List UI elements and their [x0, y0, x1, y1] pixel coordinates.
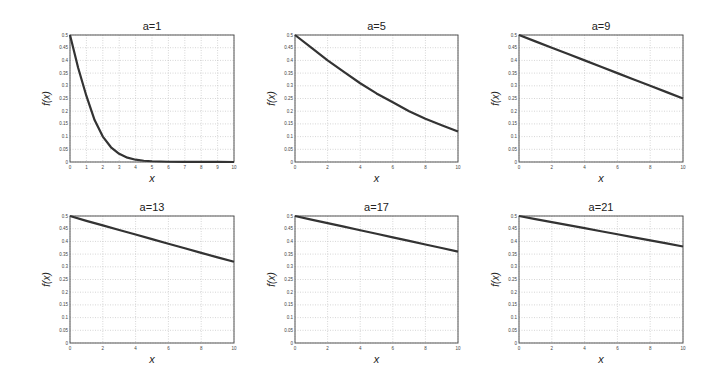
x-tick-label: 8: [424, 165, 427, 170]
x-axis-label: x: [597, 172, 604, 184]
subplot-a1: 01234567891000.050.10.150.20.250.30.350.…: [40, 15, 240, 194]
y-tick-label: 0.15: [284, 302, 293, 307]
y-tick-label: 0.4: [287, 239, 294, 244]
y-tick-label: 0.05: [508, 147, 517, 152]
x-tick-label: 7: [184, 165, 187, 170]
x-tick-label: 6: [392, 346, 395, 351]
y-tick-label: 0.45: [508, 226, 517, 231]
y-tick-label: 0.15: [284, 121, 293, 126]
x-tick-label: 1: [85, 165, 88, 170]
x-axis-label: x: [148, 353, 155, 365]
x-tick-label: 5: [151, 165, 154, 170]
y-tick-label: 0: [65, 341, 68, 346]
x-axis-label: x: [373, 172, 380, 184]
y-tick-label: 0.5: [62, 214, 69, 219]
y-tick-label: 0: [65, 160, 68, 165]
x-tick-label: 10: [231, 346, 237, 351]
x-axis-label: x: [597, 353, 604, 365]
subplot-title: a=21: [589, 201, 614, 213]
y-axis-label: f(x): [266, 272, 277, 286]
x-tick-labels: 0246810: [69, 346, 237, 351]
subplot-title: a=5: [367, 20, 386, 32]
x-tick-label: 10: [680, 346, 686, 351]
y-tick-label: 0.45: [59, 45, 68, 50]
y-tick-label: 0.15: [508, 302, 517, 307]
subplot-a21: 024681000.050.10.150.20.250.30.350.40.45…: [489, 196, 689, 375]
x-tick-label: 8: [649, 346, 652, 351]
x-tick-label: 6: [167, 165, 170, 170]
y-tick-label: 0.2: [62, 109, 69, 114]
subplot-a9: 024681000.050.10.150.20.250.30.350.40.45…: [489, 15, 689, 194]
y-tick-label: 0.45: [284, 45, 293, 50]
x-tick-label: 2: [551, 165, 554, 170]
y-axis-label: f(x): [490, 272, 501, 286]
y-tick-label: 0.3: [62, 83, 69, 88]
y-tick-label: 0.3: [511, 83, 518, 88]
y-tick-label: 0.35: [284, 71, 293, 76]
subplot-a5: 024681000.050.10.150.20.250.30.350.40.45…: [265, 15, 464, 194]
subplot-title: a=17: [364, 201, 389, 213]
y-axis-label: f(x): [41, 272, 52, 286]
x-tick-labels: 0246810: [294, 165, 461, 170]
subplot-a13: 024681000.050.10.150.20.250.30.350.40.45…: [40, 196, 240, 375]
y-tick-label: 0.1: [511, 134, 518, 139]
x-tick-labels: 0246810: [518, 165, 686, 170]
y-tick-label: 0.1: [511, 315, 518, 320]
y-tick-label: 0.3: [287, 83, 294, 88]
y-tick-label: 0.15: [508, 121, 517, 126]
y-tick-label: 0: [514, 341, 517, 346]
y-tick-labels: 00.050.10.150.20.250.30.350.40.450.5: [284, 33, 293, 165]
y-tick-label: 0.5: [62, 33, 69, 38]
y-tick-labels: 00.050.10.150.20.250.30.350.40.450.5: [59, 214, 68, 346]
y-tick-label: 0.15: [59, 302, 68, 307]
data-curve: [519, 35, 683, 99]
y-tick-label: 0.05: [284, 328, 293, 333]
x-tick-labels: 0246810: [518, 346, 686, 351]
y-tick-label: 0.5: [511, 33, 518, 38]
y-tick-label: 0.2: [287, 109, 294, 114]
subplot-a17: 024681000.050.10.150.20.250.30.350.40.45…: [265, 196, 464, 375]
grid-lines: [519, 216, 683, 343]
subplot-title: a=1: [143, 20, 162, 32]
grid-lines: [519, 35, 683, 162]
data-curve: [295, 216, 458, 252]
y-tick-label: 0.1: [62, 134, 69, 139]
y-tick-label: 0.4: [287, 58, 294, 63]
y-tick-labels: 00.050.10.150.20.250.30.350.40.450.5: [508, 33, 517, 165]
x-tick-label: 2: [102, 165, 105, 170]
x-tick-label: 6: [392, 165, 395, 170]
y-tick-label: 0.4: [62, 58, 69, 63]
x-tick-label: 4: [583, 346, 586, 351]
y-tick-label: 0.5: [511, 214, 518, 219]
y-tick-labels: 00.050.10.150.20.250.30.350.40.450.5: [59, 33, 68, 165]
y-tick-label: 0.5: [287, 214, 294, 219]
y-tick-label: 0.25: [59, 277, 68, 282]
x-tick-label: 2: [326, 346, 329, 351]
y-axis-label: f(x): [41, 91, 52, 105]
y-tick-label: 0.25: [284, 96, 293, 101]
y-tick-label: 0.35: [59, 71, 68, 76]
y-axis-label: f(x): [490, 91, 501, 105]
y-tick-label: 0.3: [287, 264, 294, 269]
y-tick-label: 0.35: [59, 252, 68, 257]
y-tick-label: 0: [290, 341, 293, 346]
data-curve: [519, 216, 683, 246]
axes-box: [295, 216, 458, 343]
axes-box: [70, 216, 234, 343]
y-tick-label: 0.25: [59, 96, 68, 101]
x-tick-label: 6: [616, 165, 619, 170]
y-tick-label: 0.1: [287, 315, 294, 320]
x-tick-label: 8: [200, 165, 203, 170]
x-tick-label: 10: [455, 165, 461, 170]
x-tick-label: 0: [294, 165, 297, 170]
y-tick-label: 0.1: [62, 315, 69, 320]
axes-box: [519, 216, 683, 343]
x-tick-label: 0: [294, 346, 297, 351]
x-tick-label: 10: [680, 165, 686, 170]
x-tick-label: 4: [583, 165, 586, 170]
y-tick-label: 0.1: [287, 134, 294, 139]
grid-lines: [295, 216, 458, 343]
y-tick-label: 0.35: [508, 71, 517, 76]
y-tick-label: 0.35: [508, 252, 517, 257]
y-tick-labels: 00.050.10.150.20.250.30.350.40.450.5: [284, 214, 293, 346]
